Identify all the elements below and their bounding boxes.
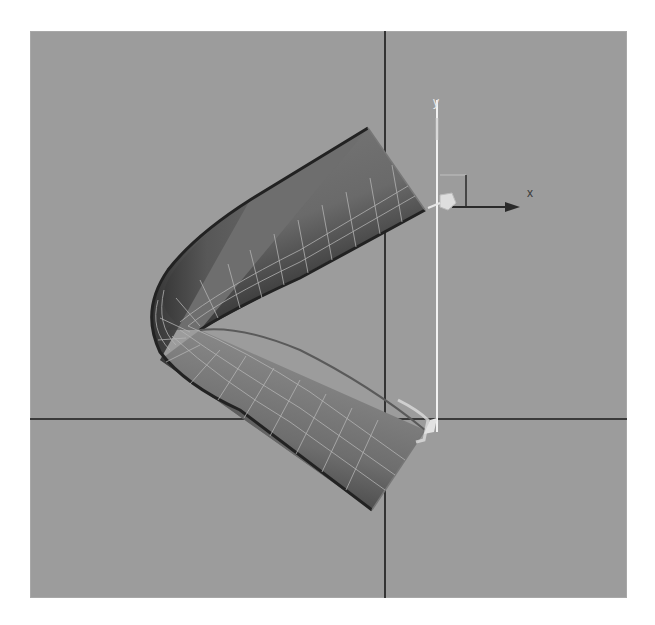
x-axis-label: x xyxy=(527,186,533,200)
3d-viewport[interactable]: y x xyxy=(30,31,627,598)
transform-gizmo[interactable]: y x xyxy=(424,95,533,434)
viewport-canvas[interactable]: y x xyxy=(30,31,627,598)
bent-tube-mesh[interactable] xyxy=(152,128,428,510)
y-axis-label: y xyxy=(433,95,439,109)
x-arrow-head-icon xyxy=(505,202,520,212)
